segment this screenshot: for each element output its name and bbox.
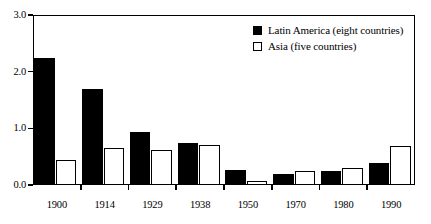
bar-latin-america-1970 <box>273 174 294 185</box>
legend-item-label: Asia (five countries) <box>268 40 356 53</box>
x-axis-group-1970: 1970 <box>272 185 320 224</box>
x-axis-tick-label: 1980 <box>320 199 368 211</box>
y-axis-tick-label: 1.0 <box>13 122 28 134</box>
x-axis-separator-tick <box>80 185 82 190</box>
x-axis-separator-tick <box>128 185 130 190</box>
bar-latin-america-1900 <box>34 58 55 186</box>
bar-asia-1914 <box>104 148 125 185</box>
x-axis-separator-tick <box>175 185 177 190</box>
bar-latin-america-1950 <box>225 170 246 185</box>
bar-latin-america-1914 <box>82 89 103 185</box>
bar-latin-america-1929 <box>130 132 151 185</box>
x-axis-group-1950: 1950 <box>224 185 272 224</box>
filled-square-icon <box>253 26 262 35</box>
legend-item: Latin America (eight countries) <box>253 23 403 37</box>
x-axis-group-1914: 1914 <box>81 185 129 224</box>
bar-asia-1900 <box>56 160 77 185</box>
y-axis-tick-label: 0.0 <box>13 179 28 191</box>
x-axis-group-1929: 1929 <box>129 185 177 224</box>
bar-latin-america-1980 <box>321 171 342 185</box>
y-axis-tick: 2.0 <box>13 66 33 78</box>
y-axis: 0.01.02.03.0 <box>0 0 33 224</box>
bar-chart: 0.01.02.03.0 190019141929193819501970198… <box>0 0 431 224</box>
x-axis-group-1900: 1900 <box>33 185 81 224</box>
y-axis-tick-label: 3.0 <box>13 9 28 21</box>
x-axis-tick-label: 1929 <box>129 199 177 211</box>
x-axis-separator-tick <box>366 185 368 190</box>
x-axis: 19001914192919381950197019801990 <box>33 185 415 224</box>
bar-latin-america-1938 <box>178 143 199 185</box>
x-axis-group-1938: 1938 <box>176 185 224 224</box>
x-axis-tick-label: 1938 <box>176 199 224 211</box>
y-axis-tick: 3.0 <box>13 9 33 21</box>
x-axis-group-1990: 1990 <box>367 185 415 224</box>
x-axis-tick-label: 1990 <box>367 199 415 211</box>
legend-item: Asia (five countries) <box>253 39 403 53</box>
bar-asia-1970 <box>295 171 316 185</box>
x-axis-separator-tick <box>223 185 225 190</box>
x-axis-separator-tick <box>271 185 273 190</box>
y-axis-tick-label: 2.0 <box>13 66 28 78</box>
x-axis-separator-tick <box>319 185 321 190</box>
x-axis-group-1980: 1980 <box>320 185 368 224</box>
x-axis-tick-label: 1914 <box>81 199 129 211</box>
chart-legend: Latin America (eight countries)Asia (fiv… <box>253 23 403 55</box>
bar-latin-america-1990 <box>369 163 390 185</box>
bar-asia-1980 <box>342 168 363 185</box>
x-axis-tick-label: 1970 <box>272 199 320 211</box>
legend-item-label: Latin America (eight countries) <box>268 24 403 37</box>
y-axis-tick: 1.0 <box>13 122 33 134</box>
y-axis-tick: 0.0 <box>13 179 33 191</box>
bar-asia-1929 <box>151 150 172 185</box>
hollow-square-icon <box>253 42 262 51</box>
bar-asia-1990 <box>390 146 411 185</box>
bar-asia-1938 <box>199 145 220 185</box>
x-axis-tick-label: 1900 <box>33 199 81 211</box>
x-axis-tick-label: 1950 <box>224 199 272 211</box>
